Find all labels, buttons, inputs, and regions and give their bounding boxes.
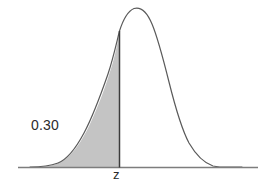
distribution-plot — [0, 0, 261, 189]
area-probability-label: 0.30 — [31, 117, 59, 133]
shaded-area-left-tail — [36, 31, 120, 167]
normal-distribution-figure: 0.30 z — [0, 0, 261, 189]
z-axis-label: z — [113, 167, 120, 182]
bell-curve — [30, 8, 242, 167]
